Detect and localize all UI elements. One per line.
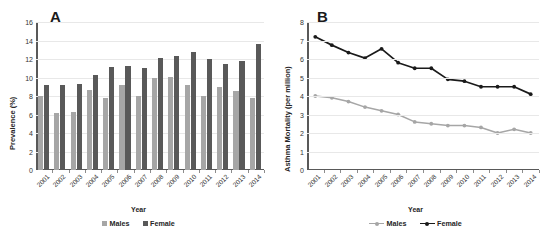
gridline [307,133,539,134]
bar-males-2013 [233,91,238,170]
bar-female-2011 [207,59,212,170]
bar-males-2007 [136,96,141,170]
y-axis-tick-label: 6 [29,111,33,118]
x-axis-tick-mark [539,170,540,173]
y-axis-tick-label: 8 [300,19,304,26]
x-axis-tick-label: 2008 [423,173,438,188]
x-axis-tick-label: 2007 [406,173,421,188]
legend-line-males-icon [369,221,384,227]
x-axis-tick-mark [456,170,457,173]
gridline [36,22,264,23]
x-axis-tick-label: 2011 [472,173,487,188]
x-axis-tick-label: 2013 [505,173,520,188]
panel-b-plot-area: 0123456782001200220032004200520062007200… [307,22,539,170]
x-axis-tick-mark [231,170,232,173]
gridline [307,115,539,116]
legend-item-males[interactable]: Males [369,219,406,228]
x-axis-tick-label: 2010 [182,173,197,188]
x-axis-tick-mark [440,170,441,173]
bar-males-2003 [71,112,76,170]
bar-males-2009 [168,77,173,170]
bar-female-2009 [174,56,179,170]
x-axis-tick-label: 2004 [356,173,371,188]
y-axis-tick-label: 7 [300,37,304,44]
x-axis-tick-label: 2006 [117,173,132,188]
legend-label-males: Males [387,219,407,228]
gridline [36,96,264,97]
y-axis-tick-label: 0 [300,167,304,174]
marker-males-2004 [363,105,367,109]
bar-female-2006 [125,66,130,170]
bar-males-2010 [185,85,190,170]
legend-swatch-female-icon [143,221,148,226]
bar-female-2012 [223,64,228,170]
x-axis-tick-label: 2007 [133,173,148,188]
marker-males-2011 [479,126,483,130]
gridline [307,78,539,79]
y-axis-tick-label: 8 [29,93,33,100]
x-axis-tick-label: 2001 [307,173,322,188]
bar-males-2004 [87,90,92,170]
x-axis-tick-label: 2011 [198,173,213,188]
panel-a-y-axis-label: Prevalence (%) [8,97,17,150]
x-axis-tick-label: 2002 [52,173,67,188]
gridline [307,22,539,23]
y-axis-tick-label: 4 [300,93,304,100]
legend-item-female[interactable]: Female [420,219,462,228]
panel-a-x-axis-label: Year [0,206,277,213]
marker-female-2010 [463,79,467,83]
bar-female-2002 [60,85,65,170]
y-axis-tick-label: 4 [29,130,33,137]
x-axis-tick-mark [522,170,523,173]
marker-males-2013 [512,127,516,131]
panel-b-y-axis-label: Asthma Mortality (per million) [283,66,292,172]
x-axis-tick-label: 2009 [166,173,181,188]
x-axis-tick-mark [248,170,249,173]
panel-a-plot-area: 0246810121416200120022003200420052006200… [36,22,264,170]
marker-female-2006 [396,61,400,65]
marker-female-2008 [429,66,433,70]
x-axis-tick-mark [506,170,507,173]
x-axis-tick-label: 2012 [215,173,230,188]
x-axis-tick-mark [117,170,118,173]
y-axis-tick-label: 16 [25,19,33,26]
gridline [307,152,539,153]
x-axis-tick-mark [150,170,151,173]
legend-item-female[interactable]: Female [143,219,175,228]
panel-b: B Asthma Mortality (per million) 0123456… [277,0,554,238]
x-axis-tick-label: 2002 [323,173,338,188]
bar-males-2006 [119,85,124,170]
legend-item-males[interactable]: Males [102,219,129,228]
x-axis-tick-label: 2013 [231,173,246,188]
bar-female-2003 [77,84,82,170]
x-axis-tick-mark [406,170,407,173]
marker-males-2010 [463,124,467,128]
x-axis-tick-mark [264,170,265,173]
y-axis-tick-label: 3 [300,111,304,118]
x-axis-tick-mark [85,170,86,173]
figure-container: A Prevalence (%) 02468101214162001200220… [0,0,554,238]
gridline [307,59,539,60]
panel-b-x-axis-label: Year [277,206,554,213]
bar-female-2004 [93,75,98,170]
y-axis-tick-label: 10 [25,74,33,81]
x-axis-tick-label: 2005 [101,173,116,188]
x-axis-tick-mark [324,170,325,173]
x-axis-tick-mark [183,170,184,173]
x-axis-tick-label: 2003 [340,173,355,188]
x-axis-tick-mark [166,170,167,173]
y-axis-tick-label: 1 [300,148,304,155]
x-axis-tick-label: 2005 [373,173,388,188]
x-axis-tick-mark [69,170,70,173]
bar-female-2007 [142,68,147,170]
marker-female-2012 [496,85,500,89]
gridline [307,41,539,42]
x-axis-tick-mark [489,170,490,173]
bar-males-2011 [201,96,206,170]
bar-males-2005 [103,98,108,170]
bar-males-2001 [38,96,43,170]
marker-female-2005 [380,47,384,51]
x-axis-tick-mark [390,170,391,173]
bar-female-2008 [158,58,163,170]
x-axis-tick-label: 2014 [247,173,262,188]
